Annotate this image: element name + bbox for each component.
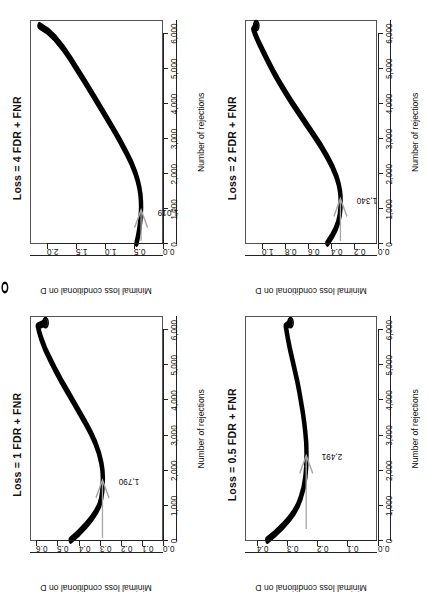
figure-canvas: Loss = 1 FDR + FNR Number of rejections …: [0, 0, 429, 593]
y-tick: [262, 245, 263, 250]
x-tick: [163, 33, 168, 34]
loss-curve: [38, 323, 103, 540]
loss-curve: [253, 26, 340, 243]
x-axis: [176, 20, 177, 245]
y-tick: [57, 541, 58, 546]
y-axis-title-text: Minimal loss conditional on D: [41, 286, 152, 296]
x-tick: [378, 68, 383, 69]
x-tick-label: 4,000: [170, 390, 179, 411]
x-axis-title: Number of rejections: [410, 20, 420, 245]
panel-title: Loss = 2 FDR + FNR: [226, 0, 238, 297]
panel-title: Loss = 1 FDR + FNR: [11, 297, 23, 593]
y-tick: [378, 541, 379, 546]
y-tick: [354, 245, 355, 250]
y-axis: [30, 552, 163, 553]
x-axis: [390, 20, 391, 245]
y-axis: [245, 552, 378, 553]
panel-grid: Loss = 1 FDR + FNR Number of rejections …: [0, 0, 429, 593]
x-tick-label: 6,000: [385, 23, 394, 44]
x-tick-label: 3,000: [385, 425, 394, 446]
y-tick: [36, 541, 37, 546]
chart-panel-loss-4: Loss = 4 FDR + FNR Number of rejections …: [0, 0, 215, 297]
x-tick-label: 4,000: [170, 94, 179, 115]
x-axis-title: Number of rejections: [196, 317, 206, 542]
y-tick: [105, 245, 106, 250]
y-tick: [163, 245, 164, 250]
endpoint-open-circle: [2, 283, 7, 292]
x-tick: [378, 470, 383, 471]
y-tick: [142, 541, 143, 546]
x-tick: [163, 138, 168, 139]
y-axis-title-text: Minimal loss conditional on D: [255, 286, 366, 296]
y-tick: [79, 541, 80, 546]
x-tick: [378, 208, 383, 209]
x-tick: [163, 435, 168, 436]
y-tick: [257, 541, 258, 546]
plot-area: [30, 20, 163, 245]
y-tick-label: 0.0: [163, 247, 174, 256]
curve-group: [267, 323, 306, 540]
x-tick-label: 1,000: [170, 199, 179, 220]
x-axis-line: [163, 330, 164, 541]
x-tick: [378, 364, 383, 365]
chart-panel-loss-0-5: Loss = 0.5 FDR + FNR Number of rejection…: [215, 297, 429, 593]
x-tick-label: 5,000: [385, 355, 394, 376]
x-tick: [378, 244, 383, 245]
y-axis-title: Minimal loss conditional on D: [245, 285, 378, 299]
x-tick: [163, 399, 168, 400]
x-tick-label: 5,000: [385, 58, 394, 79]
x-axis: [176, 317, 177, 542]
x-tick-label: 3,000: [385, 129, 394, 150]
x-tick: [378, 33, 383, 34]
x-tick-label: 1,000: [170, 496, 179, 517]
plot-svg: [31, 21, 162, 244]
x-tick: [163, 540, 168, 541]
x-tick-label: 3,000: [170, 129, 179, 150]
y-tick: [76, 245, 77, 250]
y-axis: [30, 256, 163, 257]
plot-area: [245, 20, 378, 245]
x-tick: [378, 329, 383, 330]
y-tick: [163, 541, 164, 546]
x-tick: [378, 173, 383, 174]
y-tick: [331, 245, 332, 250]
x-tick-label: 2,000: [170, 460, 179, 481]
x-axis-line: [378, 330, 379, 541]
y-tick: [347, 541, 348, 546]
y-axis-title: Minimal loss conditional on D: [30, 285, 163, 299]
x-tick: [163, 505, 168, 506]
plot-svg: [246, 21, 377, 244]
x-tick: [163, 208, 168, 209]
x-tick-label: 6,000: [170, 23, 179, 44]
plot-svg: [31, 318, 162, 541]
x-tick-label: 0: [170, 539, 179, 544]
loss-curve: [267, 323, 306, 540]
x-tick: [163, 329, 168, 330]
panel-title: Loss = 4 FDR + FNR: [11, 0, 23, 297]
x-axis-title: Number of rejections: [196, 20, 206, 245]
curve-group: [38, 323, 103, 540]
x-axis-line: [163, 34, 164, 245]
plot-area: [245, 317, 378, 542]
x-tick: [378, 505, 383, 506]
x-axis-title: Number of rejections: [410, 317, 420, 542]
y-axis-title: Minimal loss conditional on D: [245, 581, 378, 593]
annotation-group: [333, 199, 346, 241]
x-tick-label: 5,000: [170, 58, 179, 79]
x-tick-label: 0: [385, 242, 394, 247]
x-tick: [163, 244, 168, 245]
y-tick-label: 0.0: [378, 544, 389, 553]
x-axis-line: [378, 34, 379, 245]
x-tick-label: 2,000: [385, 164, 394, 185]
chart-panel-loss-2: Loss = 2 FDR + FNR Number of rejections …: [215, 0, 429, 297]
x-tick: [378, 103, 383, 104]
y-tick: [287, 541, 288, 546]
y-axis-title: Minimal loss conditional on D: [30, 581, 163, 593]
y-tick-label: 0.0: [163, 544, 174, 553]
x-tick-label: 0: [170, 242, 179, 247]
x-tick-label: 2,000: [385, 460, 394, 481]
x-tick-label: 0: [385, 539, 394, 544]
y-axis-title-text: Minimal loss conditional on D: [41, 583, 152, 593]
y-tick: [378, 245, 379, 250]
y-axis: [245, 256, 378, 257]
